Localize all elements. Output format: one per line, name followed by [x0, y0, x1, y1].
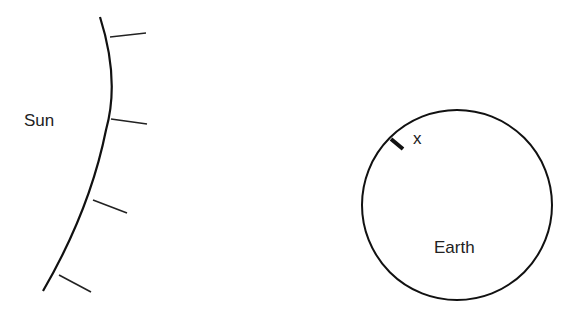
sun-label: Sun — [24, 111, 54, 131]
point-x-marker — [391, 139, 403, 149]
diagram-canvas — [0, 0, 574, 318]
earth-circle — [362, 110, 552, 300]
point-x-label: x — [413, 129, 422, 149]
sun-ray — [110, 33, 146, 37]
sun-ray — [93, 200, 127, 213]
sun-surface-arc — [43, 17, 112, 291]
sun-ray — [111, 119, 147, 124]
earth-label: Earth — [434, 238, 475, 258]
sun-ray — [59, 275, 91, 292]
